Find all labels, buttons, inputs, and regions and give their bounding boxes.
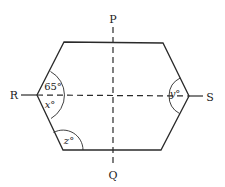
angle-label-x: x° xyxy=(45,100,56,110)
hexagon-diagram: P Q R S 65° x° y° z° xyxy=(0,0,225,187)
degree-symbol: ° xyxy=(175,88,180,99)
degree-symbol: ° xyxy=(69,135,74,146)
line-rs xyxy=(37,95,189,96)
point-label-s: S xyxy=(206,92,214,103)
point-label-p: P xyxy=(109,14,116,25)
point-label-q: Q xyxy=(108,170,117,181)
angle-label-65: 65° xyxy=(44,82,62,92)
degree-symbol: ° xyxy=(50,99,55,110)
angle-label-y: y° xyxy=(170,89,181,99)
diagram-svg xyxy=(0,0,225,187)
point-label-r: R xyxy=(10,90,18,101)
angle-label-z: z° xyxy=(64,136,74,146)
